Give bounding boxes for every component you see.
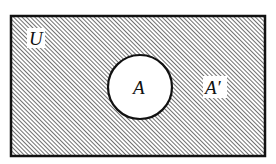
universe-label: U (29, 28, 44, 49)
complement-label: A′ (203, 77, 222, 98)
set-a-label: A (131, 77, 145, 98)
venn-diagram: U A A′ (0, 0, 276, 164)
